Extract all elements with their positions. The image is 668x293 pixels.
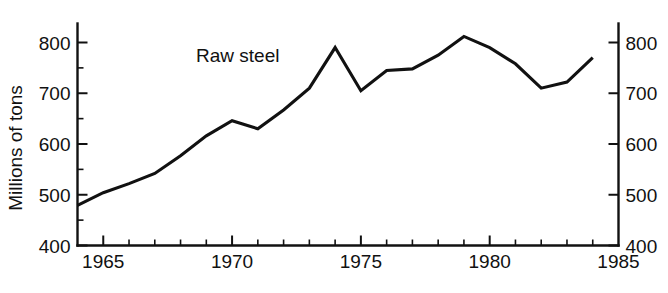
raw-steel-line-chart: 4004005005006006007007008008001965197019…	[0, 0, 668, 293]
chart-canvas: 4004005005006006007007008008001965197019…	[0, 0, 668, 293]
y-axis-title: Millions of tons	[5, 85, 26, 211]
y-axis-right-tick-label: 700	[626, 83, 658, 104]
x-axis-tick-label: 1965	[82, 251, 124, 272]
y-axis-right-tick-label: 500	[626, 185, 658, 206]
y-axis-right-tick-label: 600	[626, 134, 658, 155]
y-axis-left-tick-label: 500	[39, 185, 71, 206]
series-annotation-raw-steel: Raw steel	[196, 45, 279, 66]
y-axis-left-tick-label: 800	[39, 33, 71, 54]
y-axis-right-tick-label: 800	[626, 33, 658, 54]
y-axis-left-tick-label: 400	[39, 236, 71, 257]
y-axis-left-tick-label: 700	[39, 83, 71, 104]
x-axis-tick-label: 1970	[211, 251, 253, 272]
x-axis-tick-label: 1985	[597, 251, 639, 272]
x-axis-tick-label: 1975	[340, 251, 382, 272]
x-axis-tick-label: 1980	[469, 251, 511, 272]
raw-steel-data-line	[78, 36, 593, 205]
y-axis-left-tick-label: 600	[39, 134, 71, 155]
